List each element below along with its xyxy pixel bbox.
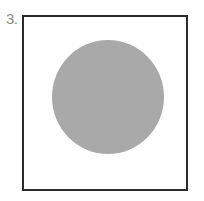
gray-circle [52, 40, 164, 154]
figure-canvas [0, 0, 204, 201]
